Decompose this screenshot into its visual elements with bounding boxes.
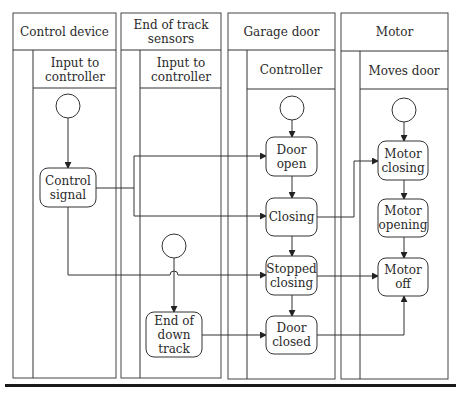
lane-title-motor: Motor [341,13,448,51]
lane-title-garage-door: Garage door [228,13,335,50]
lane-subtitle-garage-door: Controller [247,51,335,89]
lane-subtitle-end-of-track-sensors: Input to controller [150,52,212,88]
connectors [68,118,404,335]
node-end-of-down-track: End of down track [150,312,198,357]
end-of-track-start-node [162,234,186,258]
node-motor-closing: Motor closing [378,141,428,180]
motor-start-node [392,98,416,122]
node-closing: Closing [266,198,317,236]
node-control-signal: Control signal [42,168,94,207]
node-door-closed: Door closed [268,316,315,354]
lane-title-end-of-track-sensors: End of track sensors [128,13,214,50]
node-stopped-closing: Stopped closing [266,256,317,295]
lane-subtitle-control-device: Input to controller [45,52,105,88]
node-door-open: Door open [268,137,315,176]
lane-title-control-device: Control device [13,13,116,50]
node-motor-off: Motor off [382,258,424,296]
control-device-start-node [56,94,80,118]
controller-start-node [280,96,304,120]
lane-subtitle-motor: Moves door [360,52,448,89]
bottom-rule [5,384,456,387]
node-motor-opening: Motor opening [378,199,428,237]
